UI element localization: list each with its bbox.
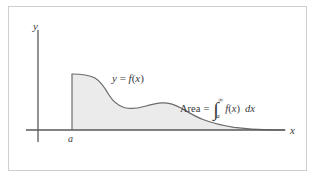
- area-word: Area: [180, 104, 200, 115]
- differential-dx: dx: [245, 104, 255, 115]
- integral-symbol-group: ∞ ∫ a: [213, 99, 223, 119]
- integrand-close-paren: ): [236, 103, 240, 114]
- integral-upper-limit: ∞: [218, 97, 223, 104]
- integrand-expression: f(x): [225, 104, 240, 115]
- improper-integral-figure: y x a y = f(x) Area = ∞ ∫ a f(x) dx: [0, 0, 316, 179]
- x-axis-tick-label-a: a: [68, 134, 73, 144]
- y-axis-label: y: [33, 21, 38, 32]
- plot-area: [0, 0, 316, 179]
- curve-label-close-paren: ): [140, 72, 144, 84]
- curve-equation-label: y = f(x): [112, 73, 144, 84]
- area-integral-label: Area = ∞ ∫ a f(x) dx: [180, 99, 255, 119]
- integral-lower-limit: a: [216, 113, 220, 120]
- curve-label-equals: =: [117, 72, 129, 84]
- x-axis-label: x: [290, 125, 295, 136]
- area-equals-sign: =: [203, 104, 209, 115]
